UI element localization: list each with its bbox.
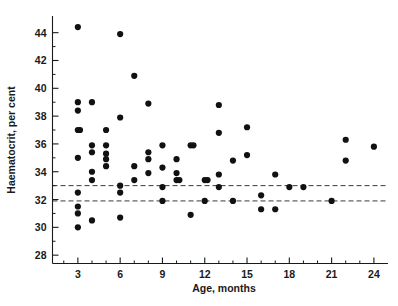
data-point bbox=[75, 155, 81, 161]
data-point bbox=[117, 31, 123, 37]
data-points-group bbox=[75, 24, 377, 230]
data-point bbox=[75, 99, 81, 105]
x-tick-label: 3 bbox=[75, 268, 81, 280]
data-point bbox=[272, 206, 278, 212]
data-point bbox=[258, 192, 264, 198]
data-point bbox=[188, 212, 194, 218]
data-point bbox=[216, 102, 222, 108]
data-point bbox=[145, 101, 151, 107]
data-point bbox=[159, 198, 165, 204]
x-tick-label: 24 bbox=[368, 268, 380, 280]
y-tick-label: 32 bbox=[35, 194, 47, 206]
y-tick-label: 44 bbox=[35, 27, 47, 39]
data-point bbox=[244, 152, 250, 158]
data-point bbox=[131, 163, 137, 169]
data-point bbox=[131, 73, 137, 79]
data-point bbox=[329, 198, 335, 204]
data-point bbox=[117, 189, 123, 195]
data-point bbox=[89, 169, 95, 175]
data-point bbox=[300, 184, 306, 190]
data-point bbox=[343, 137, 349, 143]
axes-group bbox=[53, 16, 389, 264]
data-point bbox=[89, 149, 95, 155]
data-point bbox=[75, 203, 81, 209]
data-point bbox=[216, 130, 222, 136]
data-point bbox=[89, 142, 95, 148]
data-point bbox=[77, 127, 83, 133]
data-point bbox=[145, 149, 151, 155]
x-tick-label: 6 bbox=[117, 268, 123, 280]
y-tick-label: 34 bbox=[35, 166, 47, 178]
data-point bbox=[258, 206, 264, 212]
data-point bbox=[117, 114, 123, 120]
haematocrit-scatter-figure: 3691215182124283032343638404244 Age, mon… bbox=[0, 0, 398, 306]
data-point bbox=[343, 158, 349, 164]
tick-labels-group: 3691215182124283032343638404244 bbox=[35, 27, 380, 280]
data-point bbox=[173, 156, 179, 162]
data-point bbox=[272, 171, 278, 177]
data-point bbox=[230, 198, 236, 204]
data-point bbox=[176, 177, 182, 183]
scatter-plot-canvas: 3691215182124283032343638404244 Age, mon… bbox=[0, 0, 398, 306]
data-point bbox=[131, 177, 137, 183]
x-tick-label: 15 bbox=[241, 268, 253, 280]
data-point bbox=[230, 158, 236, 164]
data-point bbox=[75, 107, 81, 113]
data-point bbox=[103, 151, 109, 157]
data-point bbox=[173, 170, 179, 176]
data-point bbox=[89, 177, 95, 183]
data-point bbox=[103, 142, 109, 148]
data-point bbox=[145, 170, 151, 176]
data-point bbox=[117, 215, 123, 221]
data-point bbox=[145, 156, 151, 162]
x-tick-label: 21 bbox=[326, 268, 338, 280]
data-point bbox=[75, 210, 81, 216]
x-axis-title: Age, months bbox=[192, 282, 256, 294]
data-point bbox=[190, 142, 196, 148]
data-point bbox=[103, 156, 109, 162]
x-tick-label: 12 bbox=[199, 268, 211, 280]
y-tick-label: 30 bbox=[35, 221, 47, 233]
y-tick-label: 42 bbox=[35, 54, 47, 66]
data-point bbox=[204, 177, 210, 183]
data-point bbox=[216, 171, 222, 177]
y-tick-label: 28 bbox=[35, 249, 47, 261]
data-point bbox=[75, 189, 81, 195]
data-point bbox=[89, 217, 95, 223]
data-point bbox=[75, 24, 81, 30]
tick-marks-group bbox=[53, 33, 374, 264]
y-tick-label: 36 bbox=[35, 138, 47, 150]
data-point bbox=[75, 224, 81, 230]
data-point bbox=[202, 198, 208, 204]
y-tick-label: 40 bbox=[35, 82, 47, 94]
x-tick-label: 9 bbox=[160, 268, 166, 280]
data-point bbox=[103, 163, 109, 169]
data-point bbox=[371, 144, 377, 150]
data-point bbox=[159, 164, 165, 170]
data-point bbox=[117, 183, 123, 189]
data-point bbox=[103, 127, 109, 133]
data-point bbox=[159, 142, 165, 148]
y-tick-label: 38 bbox=[35, 110, 47, 122]
data-point bbox=[159, 184, 165, 190]
y-axis-title: Haematocrit, per cent bbox=[5, 86, 17, 194]
data-point bbox=[244, 124, 250, 130]
data-point bbox=[89, 99, 95, 105]
data-point bbox=[216, 184, 222, 190]
x-tick-label: 18 bbox=[283, 268, 295, 280]
data-point bbox=[286, 184, 292, 190]
